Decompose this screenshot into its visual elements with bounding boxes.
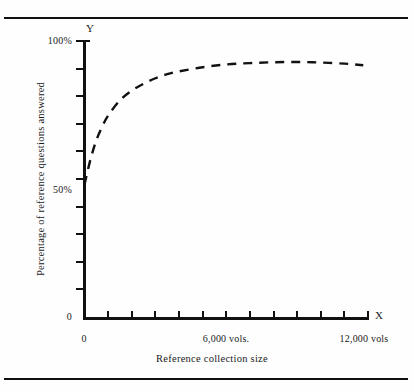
x-tick-label-0: 0 [64, 333, 104, 344]
x-axis-letter: X [375, 309, 383, 321]
line-chart: Y X 100% 50% 0 0 6,000 vols. 12,000 vols… [0, 20, 414, 375]
page-rule-bottom [4, 378, 408, 380]
figure-page: Y X 100% 50% 0 0 6,000 vols. 12,000 vols… [0, 0, 414, 392]
x-tick-label-6000: 6,000 vols. [176, 333, 276, 344]
y-tick-label-100: 100% [27, 35, 72, 46]
y-axis-letter: Y [86, 22, 94, 34]
page-rule-top [4, 17, 408, 19]
y-axis-title: Percentage of reference questions answer… [35, 66, 47, 292]
y-tick-label-0: 0 [27, 311, 72, 322]
x-tick-label-12000: 12,000 vols [314, 333, 414, 344]
x-axis-title: Reference collection size [107, 353, 317, 365]
y-tick-label-50: 50% [27, 184, 72, 195]
